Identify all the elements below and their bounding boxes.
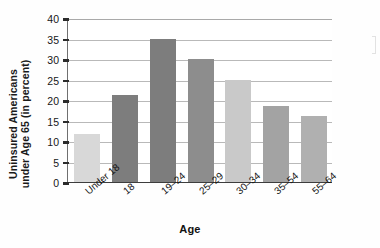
bar bbox=[150, 39, 176, 183]
bar bbox=[301, 116, 327, 182]
y-axis-tick-label: 25 bbox=[47, 75, 59, 87]
x-axis-tick-labels: Under 181819–2425–2930–3435–5455–64 bbox=[0, 0, 380, 60]
bar bbox=[74, 134, 100, 182]
bar bbox=[225, 80, 251, 183]
y-axis-title-line2: under Age 65 (in percent) bbox=[19, 60, 31, 189]
y-axis-tick-label: 20 bbox=[47, 95, 59, 107]
bar bbox=[263, 106, 289, 182]
y-axis-tick-label: 10 bbox=[47, 136, 59, 148]
y-axis-title-line1: Uninsured Americans bbox=[7, 60, 19, 189]
y-axis-tick bbox=[63, 182, 69, 185]
y-axis-tick-label: 0 bbox=[53, 177, 59, 189]
y-axis-tick-label: 15 bbox=[47, 116, 59, 128]
x-axis-tick-label: 18 bbox=[121, 181, 137, 197]
page-edge-mark bbox=[372, 36, 376, 54]
y-axis-tick-label: 5 bbox=[53, 157, 59, 169]
x-axis-title: Age bbox=[0, 223, 380, 235]
bar bbox=[188, 59, 214, 182]
bar-chart: Uninsured Americans under Age 65 (in per… bbox=[0, 0, 380, 248]
